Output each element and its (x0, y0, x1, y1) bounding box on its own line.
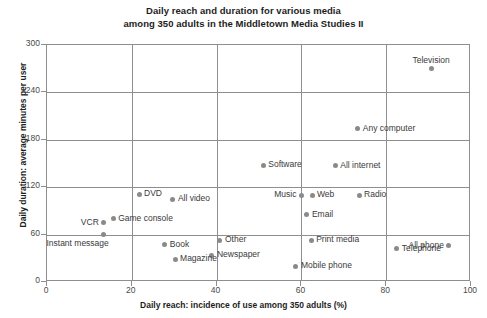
gridline-vertical (217, 45, 218, 280)
data-point[interactable] (310, 193, 315, 198)
data-point-label: Telephone (402, 244, 441, 253)
data-point[interactable] (446, 243, 451, 248)
gridline-vertical (132, 45, 133, 280)
plot-area: TelevisionAny computerAll internetSoftwa… (46, 44, 470, 281)
data-point[interactable] (293, 264, 298, 269)
gridline-horizontal (47, 235, 469, 236)
chart-title-line-1: Daily reach and duration for various med… (146, 5, 341, 16)
chart-container: Daily reach and duration for various med… (0, 0, 487, 318)
data-point-label: Book (170, 240, 189, 249)
data-point-label: Magazine (180, 254, 217, 263)
y-axis-title: Daily duration: average minutes per user (18, 45, 28, 245)
data-point-label: Game console (118, 214, 173, 223)
data-point-label: All internet (340, 161, 380, 170)
data-point-label: VCR (81, 218, 99, 227)
data-point[interactable] (304, 212, 309, 217)
x-axis-title: Daily reach: incidence of use among 350 … (0, 300, 487, 310)
data-point-label: Music (274, 190, 296, 199)
data-point-label: Newspaper (217, 250, 260, 259)
data-point-label: Software (268, 160, 302, 169)
data-point-label: DVD (144, 189, 162, 198)
data-point-label: Print media (316, 235, 359, 244)
y-axis-tick-label: 0 (2, 276, 40, 285)
chart-title-line-2: among 350 adults in the Middletown Media… (0, 17, 487, 30)
data-point-label: Television (412, 56, 449, 65)
data-point[interactable] (261, 163, 266, 168)
x-axis-tick-label: 0 (26, 285, 66, 295)
data-point-label: Other (225, 235, 246, 244)
data-point[interactable] (162, 242, 167, 247)
data-point-label: Instant message (46, 239, 108, 248)
data-point[interactable] (173, 257, 178, 262)
x-axis-tick-label: 40 (196, 285, 236, 295)
data-point-label: All video (178, 194, 210, 203)
chart-title: Daily reach and duration for various med… (0, 4, 487, 30)
data-point-label: Web (317, 190, 334, 199)
data-point[interactable] (137, 192, 142, 197)
data-point-label: Email (312, 210, 333, 219)
data-point[interactable] (101, 232, 106, 237)
data-point[interactable] (355, 126, 360, 131)
gridline-horizontal (47, 92, 469, 93)
data-point-label: Radio (364, 190, 386, 199)
data-point[interactable] (429, 66, 434, 71)
data-point[interactable] (217, 238, 222, 243)
data-point[interactable] (333, 163, 338, 168)
data-point[interactable] (101, 220, 106, 225)
x-axis-tick-label: 80 (365, 285, 405, 295)
data-point[interactable] (299, 193, 304, 198)
data-point-label: Mobile phone (301, 261, 352, 270)
data-point[interactable] (111, 216, 116, 221)
gridline-vertical (386, 45, 387, 280)
gridline-horizontal (47, 187, 469, 188)
data-point[interactable] (394, 246, 399, 251)
x-axis-tick-label: 60 (280, 285, 320, 295)
data-point[interactable] (170, 197, 175, 202)
gridline-horizontal (47, 140, 469, 141)
data-point-label: Any computer (363, 124, 415, 133)
data-point[interactable] (309, 238, 314, 243)
data-point[interactable] (357, 193, 362, 198)
x-axis-tick-label: 20 (111, 285, 151, 295)
x-axis-tick-label: 100 (450, 285, 487, 295)
